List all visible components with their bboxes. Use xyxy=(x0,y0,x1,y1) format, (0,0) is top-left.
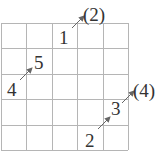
label-n1: 1 xyxy=(59,27,69,48)
label-n5: 5 xyxy=(34,52,44,73)
label-p4: (4) xyxy=(133,80,155,102)
label-p2: (2) xyxy=(83,4,105,26)
labels: 12345(2)(4) xyxy=(7,4,155,151)
grid-diagram: 12345(2)(4) xyxy=(0,0,156,154)
label-n4: 4 xyxy=(7,79,17,100)
label-n2: 2 xyxy=(85,130,95,151)
label-n3: 3 xyxy=(111,98,121,119)
